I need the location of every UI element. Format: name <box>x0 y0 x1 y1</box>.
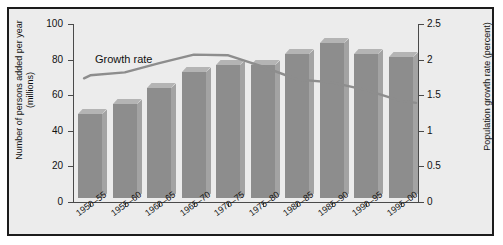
chart-frame: Number of persons added per year (millio… <box>7 7 494 236</box>
growth-rate-annotation: Growth rate <box>95 53 152 65</box>
growth-rate-line-layer <box>9 9 496 238</box>
